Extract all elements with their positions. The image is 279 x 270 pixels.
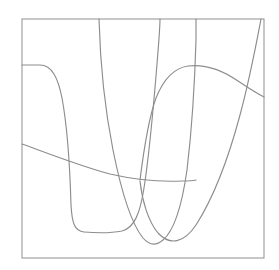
curve-3 (140, 66, 264, 180)
curve-1 (22, 19, 160, 233)
curve-layer (22, 19, 264, 244)
plot-canvas (0, 0, 279, 270)
plot-frame (22, 19, 264, 258)
figure-root (0, 0, 279, 270)
curve-4 (22, 144, 196, 181)
